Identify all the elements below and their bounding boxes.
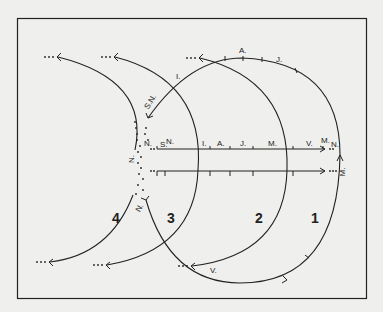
label-bottom-V: V. bbox=[210, 267, 217, 275]
label-arc-2: 2 bbox=[255, 211, 263, 225]
arc-2 bbox=[192, 58, 287, 266]
label-arc-3: 3 bbox=[167, 211, 175, 225]
label-upper-N: N. bbox=[166, 138, 174, 146]
label-arc-4: 4 bbox=[112, 211, 120, 225]
label-upper-N2: N. bbox=[331, 141, 339, 149]
arc-4 bbox=[58, 57, 137, 150]
label-upper-M: M. bbox=[268, 140, 277, 148]
label-upper-A: A. bbox=[217, 140, 225, 148]
arc-1-ticks bbox=[225, 56, 309, 258]
label-arc1-J: J. bbox=[276, 56, 282, 64]
dotted-lines bbox=[36, 56, 337, 267]
label-node-N-vertical: N. bbox=[128, 155, 136, 163]
label-upper-I: I. bbox=[202, 140, 206, 148]
label-upper-J: J. bbox=[240, 140, 246, 148]
label-arc-1: 1 bbox=[311, 211, 319, 225]
label-node-N: N. bbox=[144, 140, 152, 148]
label-upper-M2: M. bbox=[321, 137, 330, 145]
arc-4-lower bbox=[50, 195, 133, 262]
orbit-diagram bbox=[0, 0, 383, 312]
label-arc1-A: A. bbox=[239, 47, 247, 55]
label-upper-V: V. bbox=[306, 140, 313, 148]
arrow-heads bbox=[49, 53, 343, 283]
label-right-M: M. bbox=[339, 168, 347, 177]
label-arc1-I: I. bbox=[176, 73, 180, 81]
